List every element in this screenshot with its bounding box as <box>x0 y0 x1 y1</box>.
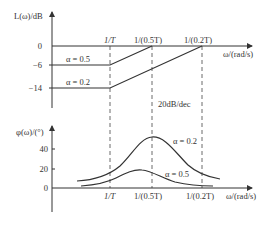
x-label-1-over-02T: 1/(0.2T) <box>184 35 212 45</box>
alpha-0.2-phase-label: α = 0.2 <box>173 136 197 146</box>
phase-x-label: ω/(rad/s) <box>226 191 256 201</box>
px-label-1-over-05T: 1/(0.5T) <box>134 191 162 201</box>
slope-label: 20dB/dec <box>158 99 191 109</box>
ptick-40: 40 <box>40 144 49 154</box>
alpha-0.5-phase-curve <box>81 170 213 186</box>
alpha-0.5-phase-label: α = 0.5 <box>165 169 189 179</box>
ptick-0: 0 <box>44 183 48 193</box>
magnitude-plot: L(ω)/dB 0 −6 −14 1/T 1/(0.5T) 1/(0.2T) ω… <box>14 11 253 109</box>
ptick-20: 20 <box>40 164 49 174</box>
tick-0db: 0 <box>38 41 42 51</box>
tick-minus6db: −6 <box>33 60 42 70</box>
alpha-0.5-label: α = 0.5 <box>66 54 90 64</box>
magnitude-x-label: ω/(rad/s) <box>223 49 253 59</box>
phase-y-label: φ(ω)/(°) <box>16 127 44 137</box>
alpha-0.2-label: α = 0.2 <box>66 77 90 87</box>
tick-minus14db: −14 <box>29 83 43 93</box>
x-label-1-over-05T: 1/(0.5T) <box>134 35 162 45</box>
x-label-1-over-T: 1/T <box>104 35 117 45</box>
magnitude-y-label: L(ω)/dB <box>14 11 43 21</box>
alpha-0.2-phase-curve <box>77 137 220 181</box>
px-label-1-over-02T: 1/(0.2T) <box>186 191 214 201</box>
px-label-1-over-T: 1/T <box>104 191 117 201</box>
phase-plot: φ(ω)/(°) 40 20 0 1/T 1/(0.5T) 1/(0.2T) ω… <box>16 126 256 212</box>
bode-diagram: L(ω)/dB 0 −6 −14 1/T 1/(0.5T) 1/(0.2T) ω… <box>0 0 275 225</box>
